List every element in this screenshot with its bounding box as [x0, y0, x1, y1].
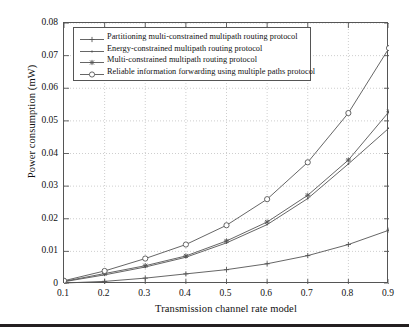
x-tick-label: 0.5	[206, 288, 246, 298]
y-tick-label: 0.04	[28, 148, 58, 158]
plot-area: Partitioning multi-constrained multipath…	[63, 22, 388, 283]
dot-marker-icon	[77, 43, 107, 54]
y-tick-label: 0	[28, 278, 58, 288]
legend-item-label: Reliable information forwarding using mu…	[107, 66, 315, 77]
x-tick-label: 0.7	[287, 288, 327, 298]
figure: Power consumption (mW) Transmission chan…	[0, 0, 409, 332]
legend-item-label: Energy-constrained multipath routing pro…	[107, 43, 262, 54]
x-tick-label: 0.1	[43, 288, 83, 298]
y-axis-tick-labels: 00.010.020.030.040.050.060.070.08	[26, 0, 58, 332]
legend-item-label: Partitioning multi-constrained multipath…	[107, 31, 298, 42]
legend-item-2[interactable]: Multi-constrained multipath routing prot…	[77, 54, 306, 66]
x-tick-label: 0.3	[124, 288, 164, 298]
x-tick-label: 0.6	[246, 288, 286, 298]
y-tick-label: 0.03	[28, 180, 58, 190]
y-tick-label: 0.07	[28, 50, 58, 60]
asterisk-marker-icon	[77, 54, 107, 65]
x-tick-label: 0.8	[327, 288, 367, 298]
legend-item-3[interactable]: Reliable information forwarding using mu…	[77, 66, 306, 78]
chart-legend: Partitioning multi-constrained multipath…	[73, 27, 311, 81]
circle-marker-icon	[77, 66, 107, 77]
series-line-1	[64, 127, 389, 282]
x-axis-tick-labels: 0.10.20.30.40.50.60.70.80.9	[0, 288, 409, 302]
x-tick-label: 0.4	[165, 288, 205, 298]
x-axis-label: Transmission channel rate model	[63, 303, 389, 314]
x-tick-label: 0.9	[368, 288, 408, 298]
plus-marker-icon	[77, 31, 107, 42]
legend-item-1[interactable]: Energy-constrained multipath routing pro…	[77, 43, 306, 55]
y-tick-label: 0.02	[28, 213, 58, 223]
y-tick-label: 0.01	[28, 245, 58, 255]
y-tick-label: 0.08	[28, 17, 58, 27]
legend-item-label: Multi-constrained multipath routing prot…	[107, 54, 257, 65]
legend-item-0[interactable]: Partitioning multi-constrained multipath…	[77, 31, 306, 43]
y-tick-label: 0.05	[28, 115, 58, 125]
x-tick-label: 0.2	[84, 288, 124, 298]
y-tick-label: 0.06	[28, 82, 58, 92]
footer-rule	[0, 324, 409, 327]
